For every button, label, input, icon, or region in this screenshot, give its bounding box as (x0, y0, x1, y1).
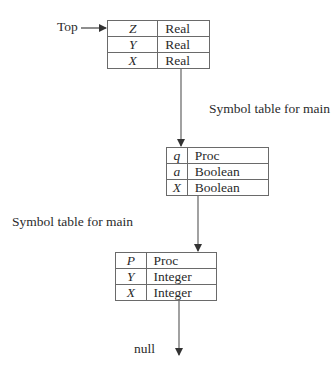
table-row: Z Real (108, 21, 210, 37)
symbol-type: Real (158, 53, 210, 69)
table-row: q Proc (167, 148, 269, 164)
null-label: null (134, 341, 155, 357)
symbol-type: Proc (187, 148, 268, 164)
top-label: Top (57, 19, 78, 35)
symbol-name: Z (108, 21, 158, 37)
symbol-type: Real (158, 21, 210, 37)
symbol-name: P (116, 253, 147, 269)
symbol-type: Real (158, 37, 210, 53)
symbol-name: X (167, 180, 188, 196)
table-row: Y Real (108, 37, 210, 53)
caption-symbol-table-2: Symbol table for main (12, 214, 133, 230)
symbol-table-2: q Proc a Boolean X Boolean (166, 147, 269, 196)
table-row: Y Integer (116, 269, 217, 285)
table-row: X Integer (116, 285, 217, 301)
symbol-type: Proc (146, 253, 216, 269)
symbol-name: Y (116, 269, 147, 285)
symbol-name: X (108, 53, 158, 69)
symbol-type: Boolean (187, 164, 268, 180)
table-row: P Proc (116, 253, 217, 269)
table-row: X Real (108, 53, 210, 69)
symbol-type: Integer (146, 269, 216, 285)
symbol-name: Y (108, 37, 158, 53)
symbol-name: q (167, 148, 188, 164)
symbol-type: Integer (146, 285, 216, 301)
table-row: X Boolean (167, 180, 269, 196)
symbol-table-3: P Proc Y Integer X Integer (115, 252, 217, 301)
symbol-name: X (116, 285, 147, 301)
symbol-table-1: Z Real Y Real X Real (107, 20, 210, 69)
table-row: a Boolean (167, 164, 269, 180)
caption-symbol-table-1: Symbol table for main (209, 101, 330, 117)
symbol-type: Boolean (187, 180, 268, 196)
symbol-name: a (167, 164, 188, 180)
